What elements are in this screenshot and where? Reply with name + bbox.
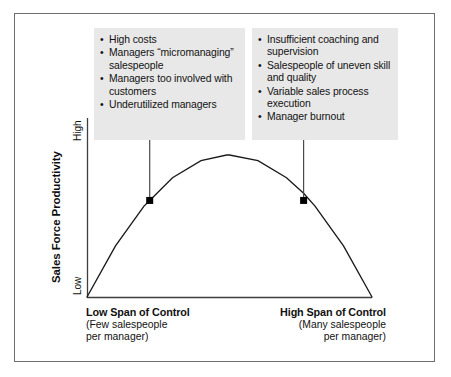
bullet-icon: • xyxy=(258,86,262,98)
y-axis-title: Sales Force Productivity xyxy=(50,151,62,283)
list-item-text: Salespeople of uneven skill and quality xyxy=(267,60,390,83)
bullet-icon: • xyxy=(100,73,104,85)
x-axis-caption-low-span: Low Span of Control (Few salespeople per… xyxy=(86,306,190,344)
list-item: •Insufficient coaching and supervision xyxy=(258,34,393,59)
marker-low-span xyxy=(146,197,153,204)
bullet-icon: • xyxy=(100,99,104,111)
x-axis-caption-high-span-title: High Span of Control xyxy=(280,306,386,319)
figure-canvas: •High costs •Managers “micromanaging” sa… xyxy=(0,0,451,377)
x-axis-caption-high-span: High Span of Control (Many salespeople p… xyxy=(280,306,386,344)
y-axis-tick-low: Low xyxy=(72,277,83,295)
callout-low-span: •High costs •Managers “micromanaging” sa… xyxy=(94,28,245,140)
list-item: •Managers “micromanaging” salespeople xyxy=(100,47,240,72)
x-axis-caption-low-span-title: Low Span of Control xyxy=(86,306,190,319)
bullet-icon: • xyxy=(258,60,262,72)
list-item: •High costs xyxy=(100,34,240,46)
callout-low-span-list: •High costs •Managers “micromanaging” sa… xyxy=(100,34,240,111)
bullet-icon: • xyxy=(100,47,104,59)
callout-high-span: •Insufficient coaching and supervision •… xyxy=(252,28,398,140)
x-axis-caption-high-span-line2: per manager) xyxy=(280,331,386,344)
marker-high-span xyxy=(300,197,307,204)
list-item-text: High costs xyxy=(109,34,157,45)
list-item: •Salespeople of uneven skill and quality xyxy=(258,60,393,85)
list-item-text: Manager burnout xyxy=(267,111,345,122)
x-axis-caption-low-span-line2: per manager) xyxy=(86,331,190,344)
bullet-icon: • xyxy=(258,111,262,123)
bullet-icon: • xyxy=(100,34,104,46)
bullet-icon: • xyxy=(258,34,262,46)
list-item: •Manager burnout xyxy=(258,111,393,123)
productivity-curve xyxy=(87,155,372,297)
list-item-text: Insufficient coaching and supervision xyxy=(267,34,379,57)
list-item-text: Underutilized managers xyxy=(109,99,217,110)
list-item: •Managers too involved with customers xyxy=(100,73,240,98)
list-item: •Underutilized managers xyxy=(100,99,240,111)
list-item-text: Managers “micromanaging” salespeople xyxy=(109,47,234,70)
list-item-text: Managers too involved with customers xyxy=(109,73,232,96)
x-axis-caption-high-span-line1: (Many salespeople xyxy=(280,319,386,332)
list-item-text: Variable sales process execution xyxy=(267,86,369,109)
list-item: •Variable sales process execution xyxy=(258,86,393,111)
callout-high-span-list: •Insufficient coaching and supervision •… xyxy=(258,34,393,124)
y-axis-tick-high: High xyxy=(72,120,83,141)
x-axis-caption-low-span-line1: (Few salespeople xyxy=(86,319,190,332)
